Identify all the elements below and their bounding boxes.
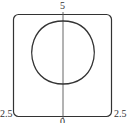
diagram-canvas xyxy=(0,0,128,123)
label-top: 5 xyxy=(60,1,65,11)
label-bottom-left: 2.5 xyxy=(0,109,13,119)
label-bottom-right: 2.5 xyxy=(114,109,127,119)
rounded-square-frame xyxy=(14,15,112,117)
label-bottom: 0 xyxy=(60,117,65,123)
